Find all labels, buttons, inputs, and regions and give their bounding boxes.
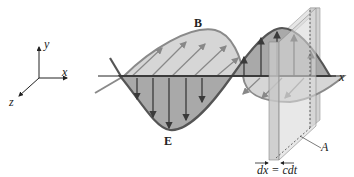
coordinate-axes: [19, 47, 67, 96]
e-field-label: E: [164, 135, 172, 147]
x-axis-label: x: [339, 71, 344, 83]
y-axis-label: y: [44, 38, 49, 50]
x-axis-label-triad: x: [62, 66, 67, 78]
thickness-label: dx = cdt: [257, 164, 297, 176]
b-field-label: B: [194, 17, 202, 29]
em-wave-diagram: y x z B E x A dx = cdt: [0, 0, 354, 177]
z-axis-label: z: [9, 96, 14, 108]
area-label: A: [321, 141, 328, 153]
